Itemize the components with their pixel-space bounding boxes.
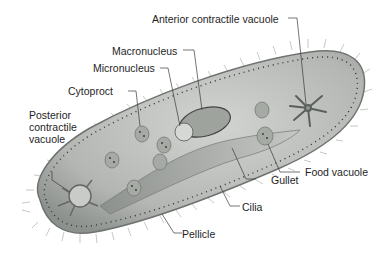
label-pellicle: Pellicle: [182, 228, 215, 240]
label-cilia: Cilia: [242, 201, 262, 213]
label-gullet: Gullet: [271, 174, 298, 186]
label-food-vacuole: Food vacuole: [305, 166, 368, 178]
micronucleus: [175, 123, 193, 141]
label-posterior-contractile-vacuole: Posterior contractile vacuole: [29, 109, 87, 145]
label-macronucleus: Macronucleus: [112, 45, 177, 57]
label-cytoproct: Cytoproct: [68, 85, 113, 97]
paramecium-diagram: Anterior contractile vacuole Macronucleu…: [0, 0, 390, 256]
label-micronucleus: Micronucleus: [93, 62, 155, 74]
label-anterior-contractile-vacuole: Anterior contractile vacuole: [152, 13, 279, 25]
